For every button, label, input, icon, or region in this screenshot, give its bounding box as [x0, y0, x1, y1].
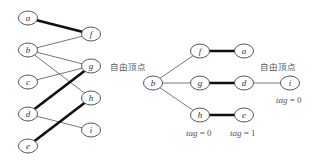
node-label: b [26, 45, 31, 55]
tree-node-a: a [235, 44, 254, 58]
left-node-f: f [82, 27, 101, 41]
left-node-i: i [82, 123, 101, 137]
left-node-c: c [19, 75, 38, 89]
tree-node-f: f [191, 44, 210, 58]
node-label: h [89, 93, 94, 103]
tree-node-d: d [235, 76, 254, 90]
tag-label-e: tag = 1 [230, 128, 256, 138]
node-label: c [26, 77, 30, 87]
tag-label-i: tag = 0 [276, 95, 302, 105]
tree-node-i: i [281, 76, 300, 90]
node-label: a [242, 46, 247, 56]
free-vertex-label-b: 自由顶点 [110, 62, 146, 72]
tag-name: tag [230, 128, 242, 138]
tree-node-g: g [191, 76, 210, 90]
tag-name: tag [186, 128, 198, 138]
left-node-h: h [82, 91, 101, 105]
free-vertex-label-i: 自由顶点 [260, 62, 296, 72]
left-node-g: g [82, 59, 101, 73]
left-node-a: a [19, 11, 38, 25]
bipartite-matching-diagram: abcdefghi bfghadei 自由顶点 自由顶点 tag = 0 tag… [0, 0, 313, 160]
node-label: h [198, 110, 203, 120]
node-label: d [26, 109, 31, 119]
left-graph-nodes: abcdefghi [19, 11, 101, 153]
tag-name: tag [276, 95, 288, 105]
tree-node-b: b [144, 76, 163, 90]
right-tree-edges [153, 51, 290, 115]
tag-value: = 0 [198, 128, 213, 138]
node-label: d [242, 78, 247, 88]
tag-value: = 0 [288, 95, 303, 105]
node-label: e [26, 141, 30, 151]
tree-node-e: e [235, 108, 254, 122]
tree-node-h: h [191, 108, 210, 122]
node-label: g [198, 78, 203, 88]
node-label: b [151, 78, 156, 88]
left-node-d: d [19, 107, 38, 121]
node-label: g [89, 61, 94, 71]
left-node-e: e [19, 139, 38, 153]
node-label: a [26, 13, 31, 23]
left-node-b: b [19, 43, 38, 57]
tag-label-h: tag = 0 [186, 128, 212, 138]
tag-value: = 1 [242, 128, 256, 138]
node-label: e [242, 110, 246, 120]
